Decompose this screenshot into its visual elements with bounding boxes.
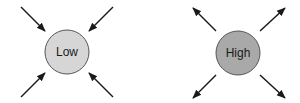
- arrow-inward-bottom-right: [89, 73, 113, 97]
- low-group: Low: [21, 7, 113, 97]
- high-label: High: [226, 46, 251, 60]
- high-group: High: [193, 8, 285, 98]
- pressure-diagram: Low High: [0, 0, 300, 103]
- arrow-outward-top-left: [193, 8, 216, 31]
- arrow-outward-bottom-left: [193, 75, 216, 98]
- arrow-outward-top-right: [260, 8, 285, 31]
- arrow-outward-bottom-right: [260, 75, 285, 98]
- arrow-inward-top-right: [89, 7, 113, 31]
- arrow-inward-top-left: [21, 7, 45, 31]
- low-label: Low: [56, 45, 78, 59]
- arrow-inward-bottom-left: [21, 73, 45, 97]
